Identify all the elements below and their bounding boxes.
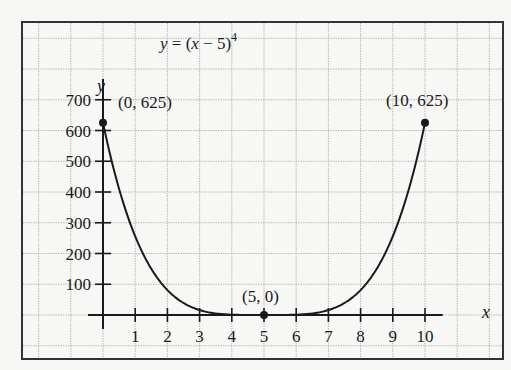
y-tick-label: 600: [66, 122, 92, 141]
y-tick-label: 500: [66, 152, 92, 171]
point-label-10-625: (10, 625): [386, 91, 448, 110]
x-tick-label: 10: [417, 327, 434, 346]
x-tick-label: 3: [195, 327, 204, 346]
y-axis-label: y: [95, 76, 105, 96]
x-tick-label: 6: [292, 327, 301, 346]
y-tick-label: 100: [66, 275, 92, 294]
y-tick-label: 300: [66, 214, 92, 233]
point-label-5-0: (5, 0): [242, 287, 279, 306]
x-tick-label: 2: [163, 327, 172, 346]
x-tick-label: 1: [131, 327, 140, 346]
y-tick-label: 200: [66, 245, 92, 264]
point-marker: [260, 311, 268, 319]
y-tick-label: 400: [66, 183, 92, 202]
title-eq: = (: [168, 34, 192, 53]
x-tick-label: 9: [389, 327, 398, 346]
title-exponent: 4: [231, 30, 237, 44]
chart-title: y = (x − 5)4: [158, 30, 237, 53]
x-axis-label: x: [481, 302, 490, 322]
x-tick-label: 4: [228, 327, 237, 346]
point-label-0-625: (0, 625): [118, 93, 172, 112]
point-marker: [99, 119, 107, 127]
point-marker: [421, 119, 429, 127]
title-lhs: y: [158, 34, 168, 53]
x-tick-label: 8: [356, 327, 365, 346]
function-graph: 12345678910 100200300400500600700 y x y …: [0, 0, 511, 370]
title-rest: − 5): [199, 34, 231, 53]
x-tick-label: 5: [260, 327, 269, 346]
y-tick-label: 700: [66, 91, 92, 110]
x-tick-label: 7: [324, 327, 333, 346]
